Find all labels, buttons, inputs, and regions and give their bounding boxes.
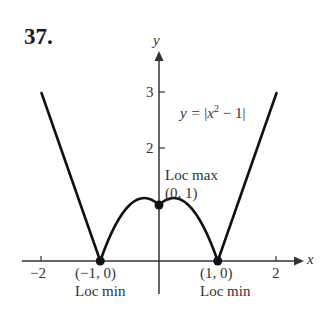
y-axis-label: y — [153, 33, 160, 48]
plot-canvas — [0, 0, 333, 313]
left-min-point: (−1, 0) — [75, 266, 116, 281]
x-tick-label-2: 2 — [272, 266, 280, 281]
point-local-max — [155, 201, 164, 210]
right-min-title: Loc min — [200, 284, 250, 299]
local-max-title: Loc max — [165, 168, 218, 183]
x-axis-label: x — [307, 252, 314, 267]
local-max-point: (0, 1) — [165, 186, 198, 201]
x-axis-arrow-icon — [294, 257, 304, 266]
equation-label: y = |x2 − 1| — [180, 104, 245, 121]
y-axis-arrow-icon — [155, 51, 164, 61]
y-tick-label-2: 2 — [146, 141, 154, 156]
equation-bar-close: | — [242, 105, 245, 121]
graph-figure: 37. y x −2 2 3 2 y = |x2 − 1| Loc max (0… — [0, 0, 333, 313]
left-min-title: Loc min — [75, 284, 125, 299]
equation-rest: − 1 — [219, 105, 242, 121]
y-tick-label-3: 3 — [146, 85, 154, 100]
equation-prefix: y = — [180, 105, 204, 121]
x-tick-label-neg2: −2 — [30, 266, 46, 281]
right-min-point: (1, 0) — [200, 266, 233, 281]
equation-var: x — [207, 105, 214, 121]
